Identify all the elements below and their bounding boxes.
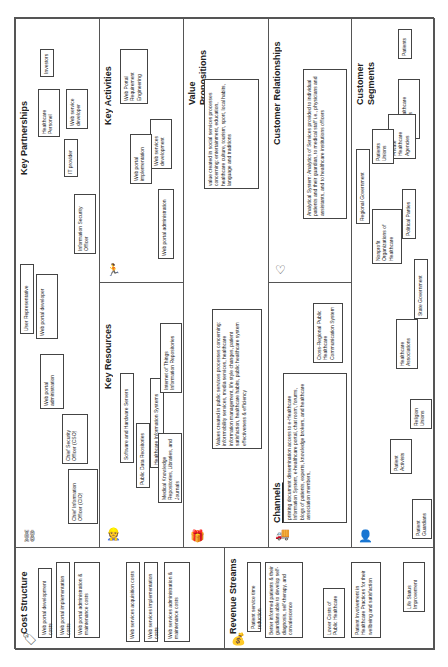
segment-item: Regional Government — [356, 149, 370, 224]
partner-item: IT provider — [64, 139, 78, 177]
activity-item: Web Portal Requirement Engineering — [120, 49, 148, 104]
segment-item: Patient Activists — [390, 439, 412, 474]
segment-item: Patient Guardians — [412, 499, 432, 539]
revenue-item: Patient Involvement in Healthcare Practi… — [351, 562, 381, 638]
key-resources-title: Key Resources — [103, 289, 114, 389]
partner-item: Information Security Officer — [74, 194, 96, 254]
partner-item: Web portal developer — [36, 274, 58, 339]
activity-item: Web portal implementation — [130, 134, 152, 184]
segment-item: Healthcare Associations — [396, 319, 418, 369]
partner-item: Investors — [40, 49, 54, 77]
channels-title: Channels — [272, 473, 283, 523]
channel-item: Cross-Regional Public Healthcare Communi… — [313, 303, 343, 363]
revenue-item: Life Status Improvement — [403, 562, 425, 612]
revenue-item: Better informed patients & their guardia… — [265, 562, 303, 638]
channel-item: printing document dissemination access t… — [283, 373, 347, 523]
key-activities-section: Key Activities 🏃 Web Portal Requirement … — [99, 18, 184, 283]
cost-item: Web portal implementation costs — [56, 562, 70, 638]
activity-person-icon: 🏃 — [106, 263, 121, 277]
customer-segments-section: Customer Segments 👤 Patients Patient Gua… — [351, 18, 435, 548]
segment-item: State Government — [414, 259, 428, 319]
chain-link-icon: ⛓ — [22, 529, 37, 543]
value-propositions-section: Value Propositions 🎁 Values created in p… — [183, 18, 269, 548]
partner-item: Healthcare Personel — [38, 89, 60, 137]
resource-item: Software and Hardware Servers — [120, 373, 134, 463]
cost-item: Web services acquisition costs — [126, 562, 140, 642]
partner-item: Chief Information Officer (CIO) — [68, 469, 98, 524]
customer-segments-title: Customer Segments — [355, 25, 377, 105]
partner-item: Web portal administration — [40, 354, 64, 409]
cost-structure-title: Cost Structure — [19, 554, 30, 634]
relationship-item: Analytical System: Analytics of Services… — [303, 69, 347, 219]
cost-item: Web services administration & maintenanc… — [164, 562, 190, 642]
resource-item: Public Data Reositories — [136, 423, 150, 488]
cost-item: Web portal development costs — [38, 568, 52, 638]
segment-item: Political Parties — [402, 189, 416, 239]
channels-section: 🚚 Channels printing document disseminati… — [268, 282, 352, 548]
key-partnerships-section: Key Partnerships ⛓ Healthcare Personel I… — [15, 18, 100, 548]
key-activities-title: Key Activities — [103, 25, 114, 125]
partner-item: Web service developer — [66, 89, 88, 129]
gift-icon: 🎁 — [190, 529, 205, 543]
segment-item: Religion Unions — [410, 399, 432, 429]
resource-item: Internet of Things Information Repositor… — [160, 323, 182, 393]
segment-item: Nonprofit Organizations of Healthcare — [372, 209, 402, 264]
segment-item: Patients — [398, 29, 412, 59]
key-resources-section: Key Resources 👷 Software and Hardware Se… — [99, 282, 184, 548]
revenue-item: Lower Costs of Public Healthcare — [323, 588, 345, 638]
resource-item: Medical Knowledge Repositories, Librarie… — [158, 433, 182, 503]
activity-item: Web services development — [150, 119, 172, 169]
partner-item: User Representative — [20, 264, 34, 334]
worker-icon: 👷 — [106, 527, 121, 541]
business-model-canvas: Key Partnerships ⛓ Healthcare Personel I… — [14, 17, 434, 649]
cost-item: Web services implementation costs — [144, 562, 158, 642]
heart-icon: ♡ — [275, 263, 286, 277]
value-item: Values created in public services proces… — [212, 309, 262, 449]
cost-structure-section: Cost Structure 🏷 Web portal development … — [15, 547, 225, 650]
activity-item: Web portal administration — [158, 189, 174, 259]
revenue-item: Patient service time reduction — [247, 562, 261, 632]
key-partnerships-title: Key Partnerships — [19, 25, 30, 175]
revenue-streams-title: Revenue Streams — [228, 554, 239, 634]
person-icon: 👤 — [358, 529, 373, 543]
cost-item: Web portal administration & maintenance … — [74, 562, 100, 638]
customer-relationships-title: Customer Relationships — [272, 25, 283, 145]
value-item: value created in social services process… — [204, 79, 259, 189]
partner-item: Chief Security Officer (CSO) — [62, 414, 88, 464]
revenue-streams-section: Revenue Streams 💰 Patient service time r… — [224, 547, 435, 650]
customer-relationships-section: Customer Relationships ♡ Analytical Syst… — [268, 18, 352, 283]
price-tag-icon: 🏷 — [22, 632, 37, 646]
truck-icon: 🚚 — [275, 527, 290, 541]
segment-item: Patients Unions — [372, 129, 394, 164]
money-bag-icon: 💰 — [231, 632, 246, 646]
